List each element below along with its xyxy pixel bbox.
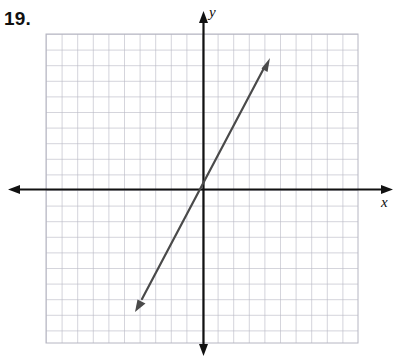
graph-figure: 19. [0, 0, 400, 360]
coordinate-plane [0, 0, 400, 360]
x-axis-label: x [381, 194, 388, 211]
y-axis-label: y [209, 4, 216, 21]
